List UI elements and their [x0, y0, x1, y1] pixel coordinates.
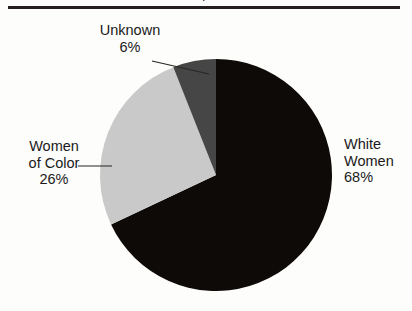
label-women-of-color-value: 26%	[6, 171, 102, 188]
label-white-women-name-line2: Women	[344, 153, 412, 170]
label-white-women-value: 68%	[344, 169, 412, 186]
label-white-women: White Women 68%	[344, 136, 412, 186]
label-women-of-color: Women of Color 26%	[6, 138, 102, 188]
pie-slices	[100, 59, 332, 291]
label-unknown-value: 6%	[82, 39, 178, 56]
label-unknown: Unknown 6%	[82, 22, 178, 55]
label-women-of-color-name-line1: Women	[6, 138, 102, 155]
label-women-of-color-name-line2: of Color	[6, 155, 102, 172]
label-unknown-name: Unknown	[82, 22, 178, 39]
label-white-women-name-line1: White	[344, 136, 412, 153]
pie-chart-figure: p Unknown 6% Women of Color 26% White Wo…	[0, 0, 412, 311]
